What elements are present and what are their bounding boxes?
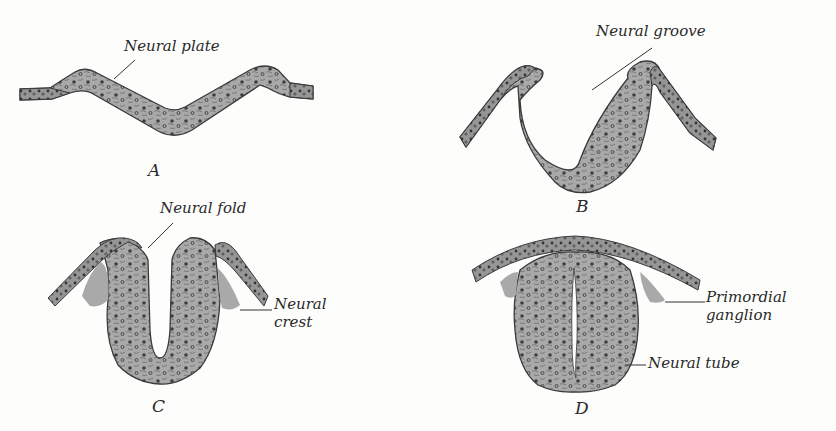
panel-c-neural-fold [48,223,272,384]
panel-b-neural-groove [460,48,716,193]
label-primordial-ganglion-line2: ganglion [706,307,772,324]
label-neural-crest-line2: crest [274,314,312,331]
panel-letter-d: D [575,398,589,418]
panel-letter-a: A [148,160,160,180]
panel-letter-c: C [152,396,165,416]
neural-tube-formation-figure: Neural plate A Neural groove B Neural fo… [0,0,836,431]
label-neural-tube: Neural tube [648,355,740,372]
panel-letter-b: B [576,196,589,216]
neural-fold-leader-line [148,223,173,248]
label-neural-crest-line1: Neural [274,296,327,313]
label-neural-groove: Neural groove [596,23,706,40]
label-neural-fold: Neural fold [160,200,246,217]
label-primordial-ganglion-line1: Primordial [706,289,787,306]
neural-plate-leader-line [114,60,135,79]
label-neural-plate: Neural plate [124,38,220,55]
panel-a-neural-plate [20,60,313,135]
